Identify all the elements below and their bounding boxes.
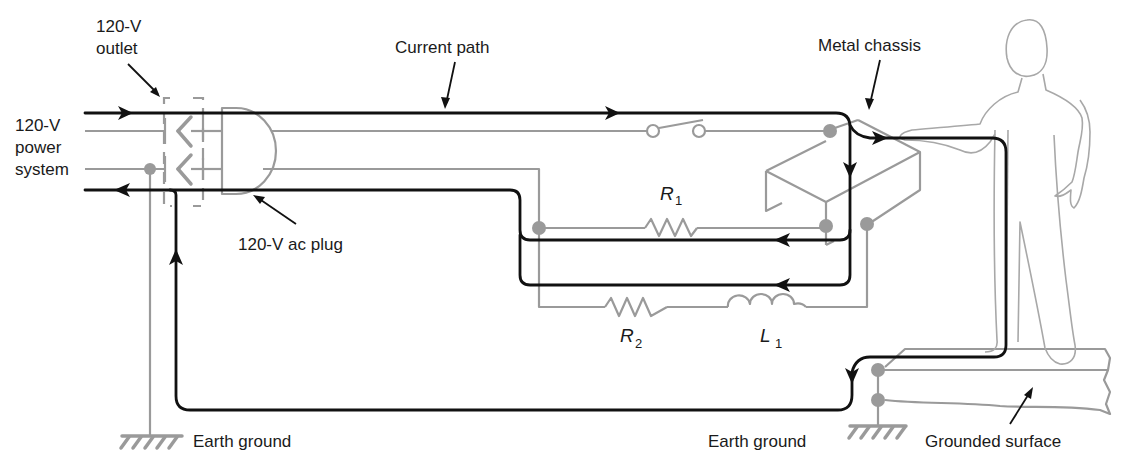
grounded-surface-label: Grounded surface — [925, 432, 1061, 451]
r2-subscript: 2 — [635, 336, 642, 351]
outlet-contacts — [165, 117, 222, 184]
r1-subscript: 1 — [675, 193, 682, 208]
outlet-label-line2: outlet — [96, 39, 138, 58]
resistor-r1 — [645, 219, 697, 236]
r2-label: R — [620, 325, 634, 346]
person-figure — [900, 20, 1090, 364]
metal-chassis-label: Metal chassis — [818, 36, 921, 55]
shock-hazard-diagram: 120-V outlet 120-V power system 120-V ac… — [0, 0, 1127, 468]
ac-plug — [222, 108, 276, 194]
r1-label: R — [660, 183, 674, 204]
l1-label: L — [760, 325, 771, 346]
earth-ground-left-label: Earth ground — [193, 432, 291, 451]
earth-ground-right-label: Earth ground — [708, 432, 806, 451]
power-system-label-line2: power — [15, 138, 62, 157]
earth-ground-icon-left — [121, 436, 182, 448]
grounded-surface — [878, 349, 1110, 414]
plug-label: 120-V ac plug — [238, 235, 343, 254]
circuit-wiring — [85, 98, 920, 435]
resistor-r2 — [605, 298, 667, 316]
current-direction-arrows — [114, 106, 888, 384]
current-path-label: Current path — [395, 38, 490, 57]
earth-ground-icon-right — [849, 426, 906, 438]
switch — [647, 120, 705, 137]
inductor-l1 — [728, 294, 806, 307]
power-system-label-line1: 120-V — [15, 116, 61, 135]
power-system-label-line3: system — [15, 160, 69, 179]
l1-subscript: 1 — [775, 336, 782, 351]
outlet-label-line1: 120-V — [96, 17, 142, 36]
